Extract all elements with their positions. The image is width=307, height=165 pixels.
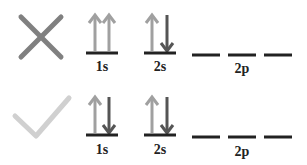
down-arrow-icon [103,97,115,133]
orbital-label-1s: 1s [82,143,122,157]
orbital-1s-row1 [86,15,118,53]
orbital-2s-row1 [144,15,176,53]
up-arrow-icon [103,15,115,51]
check-mark-icon [15,98,69,136]
orbital-diagram [0,0,307,165]
orbital-2s-row2 [144,97,176,135]
orbital-label-2p: 2p [222,145,262,159]
orbital-label-2s: 2s [140,60,180,74]
up-arrow-icon [146,15,158,51]
orbital-label-1s: 1s [82,60,122,74]
x-mark-icon [21,17,61,57]
up-arrow-icon [146,97,158,133]
orbital-label-2s: 2s [140,143,180,157]
down-arrow-icon [161,97,173,133]
orbital-label-2p: 2p [222,62,262,76]
orbital-1s-row2 [86,97,118,135]
up-arrow-icon [89,97,101,133]
up-arrow-icon [89,15,101,51]
down-arrow-icon [161,15,173,51]
